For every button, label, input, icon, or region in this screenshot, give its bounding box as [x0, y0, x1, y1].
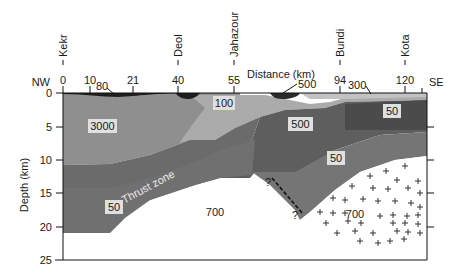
- surface-label-500: 500: [298, 78, 316, 90]
- svg-text:500: 500: [291, 118, 309, 130]
- svg-text:20: 20: [40, 221, 52, 233]
- surface-label-80: 80: [96, 80, 108, 92]
- layers: [63, 93, 427, 245]
- se-label: SE: [429, 76, 444, 88]
- svg-text:55: 55: [228, 74, 240, 86]
- fault-question-bottom: ?: [292, 209, 298, 221]
- town-kekr: Kekr: [57, 34, 69, 57]
- svg-text:21: 21: [127, 74, 139, 86]
- svg-text:50: 50: [108, 201, 120, 213]
- svg-text:50: 50: [330, 152, 342, 164]
- y-axis-title: Depth (km): [18, 158, 30, 212]
- surface-label-300: 300: [348, 79, 366, 91]
- basement-label-right: 700: [346, 208, 364, 220]
- svg-text:10: 10: [40, 154, 52, 166]
- svg-text:25: 25: [40, 254, 52, 266]
- svg-text:0: 0: [60, 74, 66, 86]
- town-jahazour: Jahazour: [228, 11, 240, 57]
- svg-text:120: 120: [396, 74, 414, 86]
- svg-text:94: 94: [334, 74, 346, 86]
- town-labels: Kekr Deol Jahazour Bundi Kota: [57, 11, 411, 57]
- svg-text:0: 0: [46, 87, 52, 99]
- town-deol: Deol: [172, 34, 184, 57]
- svg-text:5: 5: [46, 121, 52, 133]
- svg-text:40: 40: [172, 74, 184, 86]
- geologic-cross-section: 0 10 21 40 55 94 120 NW SE Distance (km)…: [0, 0, 450, 278]
- svg-text:50: 50: [386, 105, 398, 117]
- svg-text:100: 100: [215, 97, 233, 109]
- town-kota: Kota: [399, 33, 411, 57]
- fault-question-top: ?: [265, 176, 271, 188]
- svg-text:15: 15: [40, 187, 52, 199]
- svg-text:3000: 3000: [90, 120, 114, 132]
- basement-label-left: 700: [206, 206, 224, 218]
- town-bundi: Bundi: [334, 29, 346, 57]
- svg-text:10: 10: [84, 74, 96, 86]
- y-tick-labels: 0 5 10 15 20 25: [40, 87, 52, 266]
